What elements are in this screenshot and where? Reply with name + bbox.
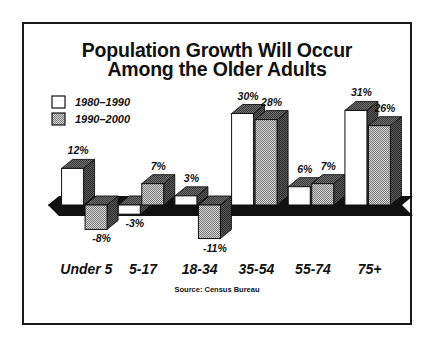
bar-value-label: -8%	[92, 232, 111, 244]
legend-label: 1990–2000	[75, 113, 131, 125]
bar-value-label: 30%	[238, 90, 260, 102]
legend-swatch	[52, 96, 65, 108]
bar-value-label: -11%	[203, 242, 227, 254]
category-label: 5-17	[129, 261, 158, 277]
bar-3d	[255, 111, 288, 205]
bar-value-label: 12%	[68, 144, 90, 156]
bar-chart-canvas: Population Growth Will Occur Among the O…	[0, 0, 435, 351]
bar-value-label: 31%	[351, 86, 373, 98]
category-label: 35-54	[238, 261, 274, 277]
category-label: Under 5	[60, 261, 112, 277]
bar-3d	[142, 175, 175, 205]
category-label: 75+	[358, 261, 382, 277]
chart-figure: Population Growth Will Occur Among the O…	[0, 0, 435, 351]
chart-legend: 1980–19901990–2000	[52, 96, 131, 125]
bar-3d	[312, 175, 345, 205]
bar-3d	[85, 196, 118, 229]
bar-3d	[62, 159, 95, 205]
bar-3d	[368, 117, 401, 205]
legend-label: 1980–1990	[75, 96, 131, 108]
bar-value-label: 6%	[297, 163, 313, 175]
bar-value-label: 7%	[321, 160, 337, 172]
category-label: 18-34	[182, 261, 218, 277]
bar-value-label: 3%	[184, 172, 200, 184]
bar-3d	[198, 196, 231, 239]
legend-swatch	[52, 113, 65, 125]
bar-value-label: 7%	[151, 160, 167, 172]
category-axis-labels: Under 55-1718-3435-5455-7475+	[60, 261, 381, 277]
chart-title: Population Growth Will Occur Among the O…	[82, 39, 353, 80]
chart-title-line-2: Among the Older Adults	[107, 58, 326, 80]
category-label: 55-74	[295, 261, 331, 277]
bar-value-label: 26%	[373, 102, 396, 114]
bar-value-label: -3%	[125, 217, 144, 229]
bar-value-label: 28%	[260, 96, 283, 108]
source-note: Source: Census Bureau	[174, 285, 259, 294]
